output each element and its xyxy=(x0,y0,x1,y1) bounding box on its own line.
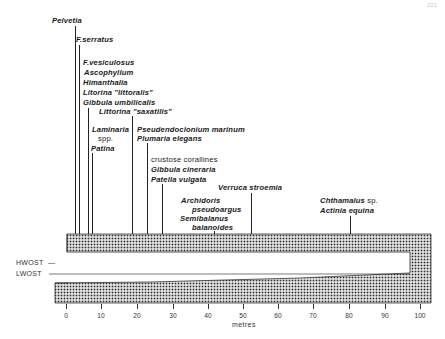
tick-100 xyxy=(420,304,421,309)
tick-label-100: 100 xyxy=(408,312,432,319)
tick-60 xyxy=(278,304,279,309)
tick-40 xyxy=(208,304,209,309)
tick-20 xyxy=(137,304,138,309)
lwost-label: LWOST xyxy=(16,270,42,277)
tick-label-0: 0 xyxy=(54,312,78,319)
tick-label-80: 80 xyxy=(337,312,361,319)
hwost-label: HWOST — xyxy=(16,259,55,266)
x-axis-label: metres xyxy=(232,321,256,328)
tick-label-40: 40 xyxy=(196,312,220,319)
tick-label-50: 50 xyxy=(231,312,255,319)
tick-label-30: 30 xyxy=(161,312,185,319)
tick-label-90: 90 xyxy=(373,312,397,319)
tick-30 xyxy=(173,304,174,309)
hwost-text: HWOST xyxy=(16,259,43,266)
tick-50 xyxy=(243,304,244,309)
tick-label-20: 20 xyxy=(125,312,149,319)
tick-0 xyxy=(66,304,67,309)
hwost-dash: — xyxy=(46,259,56,266)
tick-label-60: 60 xyxy=(266,312,290,319)
tick-70 xyxy=(313,304,314,309)
shore-profile xyxy=(0,0,445,339)
tick-80 xyxy=(349,304,350,309)
tick-90 xyxy=(385,304,386,309)
tick-label-10: 10 xyxy=(89,312,113,319)
tick-10 xyxy=(101,304,102,309)
tick-label-70: 70 xyxy=(301,312,325,319)
